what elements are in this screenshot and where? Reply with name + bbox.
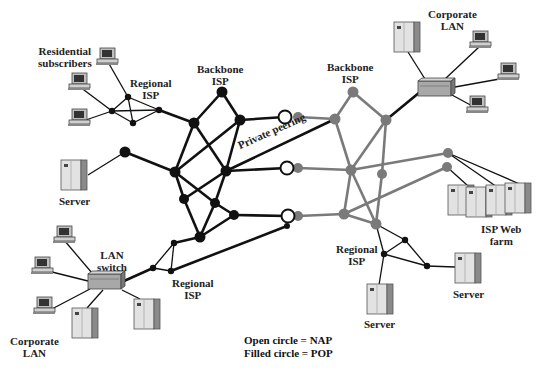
label-corporate-lan-bottom: Corporate LAN [10,335,59,359]
label-line: ISP [197,75,243,87]
label-line: ISP [336,255,378,267]
right-backbone-links [298,92,448,224]
label-line: subscribers [38,57,92,69]
label-server-bottom-right-2: Server [364,318,395,330]
label-residential-subscribers: Residential subscribers [38,45,92,69]
label-line: Regional [130,77,172,89]
server-left [61,160,87,190]
label-line: LAN [10,347,59,359]
label-line: Regional [336,243,378,255]
label-regional-isp-bottom-right: Regional ISP [336,243,378,267]
corporate-lan-bottom-left [31,226,160,338]
label-line: ISP Web [481,223,521,235]
isp-web-farm [448,183,531,217]
legend: Open circle = NAP Filled circle = POP [244,334,333,360]
label-regional-isp-bottom-left: Regional ISP [172,277,214,301]
label-server-bottom-right-1: Server [453,288,484,300]
label-regional-isp-top-left: Regional ISP [130,77,172,101]
label-backbone-isp-right: Backbone ISP [327,61,373,85]
label-server-left: Server [59,195,90,207]
label-corporate-lan-top: Corporate LAN [428,8,477,32]
label-line: LAN [428,20,477,32]
legend-pop: Filled circle = POP [244,347,333,360]
label-lan-switch: LAN switch [97,249,127,273]
label-line: Regional [172,277,214,289]
label-line: switch [97,261,127,273]
label-line: farm [481,235,521,247]
label-line: Backbone [197,63,243,75]
label-line: ISP [327,73,373,85]
label-line: Backbone [327,61,373,73]
label-line: ISP [172,289,214,301]
label-line: Residential [38,45,92,57]
legend-nap: Open circle = NAP [244,334,333,347]
label-isp-web-farm: ISP Web farm [481,223,521,247]
label-backbone-isp-left: Backbone ISP [197,63,243,87]
label-line: LAN [97,249,127,261]
label-line: ISP [130,89,172,101]
label-line: Corporate [428,8,477,20]
label-line: Corporate [10,335,59,347]
